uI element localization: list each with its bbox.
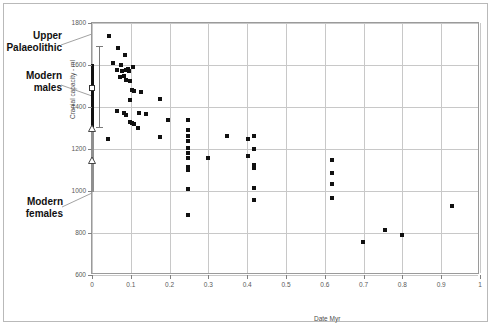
y-tick-mark (88, 65, 92, 66)
scatter-point (252, 198, 256, 202)
scatter-point (330, 171, 334, 175)
x-tick-mark (441, 275, 442, 279)
scatter-point (252, 147, 256, 151)
gridline-vertical (208, 23, 209, 273)
gridline-vertical (325, 23, 326, 273)
y-tick-mark (88, 23, 92, 24)
upper-palaeolithic-whisker (99, 46, 100, 127)
gridline-horizontal (92, 149, 478, 150)
scatter-point (206, 156, 210, 160)
x-tick-label: 0.9 (429, 281, 453, 288)
scatter-point (132, 89, 136, 93)
y-tick-label: 1800 (58, 19, 86, 26)
scatter-point (137, 111, 141, 115)
annotation-modern-females: Modern females (0, 196, 63, 220)
annotation-modern-males: Modern males (0, 70, 62, 94)
x-tick-label: 0 (80, 281, 104, 288)
annotation-upper-palaeolithic: Upper Palaeolithic (0, 30, 62, 54)
chart-figure: Upper Palaeolithic Modern males Modern f… (0, 0, 491, 325)
annotation-modern-females-line2: females (0, 208, 63, 220)
scatter-point (383, 228, 387, 232)
plot-area: 60080010001200140016001800 00.10.20.30.4… (91, 22, 479, 274)
x-tick-mark (364, 275, 365, 279)
scatter-point (246, 137, 250, 141)
scatter-point (361, 240, 365, 244)
gridline-vertical (247, 23, 248, 273)
x-tick-label: 0.5 (274, 281, 298, 288)
x-tick-mark (247, 275, 248, 279)
gridline-horizontal (92, 233, 478, 234)
x-tick-mark (131, 275, 132, 279)
x-tick-label: 0.2 (158, 281, 182, 288)
gridline-horizontal (92, 107, 478, 108)
scatter-point (186, 146, 190, 150)
y-tick-mark (88, 191, 92, 192)
annotation-modern-females-line1: Modern (0, 196, 63, 208)
y-tick-label: 1200 (58, 145, 86, 152)
scatter-point (186, 151, 190, 155)
scatter-point (400, 233, 404, 237)
scatter-point (136, 126, 140, 130)
scatter-point (186, 118, 190, 122)
x-axis-title: Date Myr (314, 315, 340, 322)
scatter-point (186, 128, 190, 132)
y-tick-mark (88, 233, 92, 234)
gridline-vertical (131, 23, 132, 273)
y-tick-mark (88, 107, 92, 108)
scatter-point (252, 134, 256, 138)
x-tick-label: 0.4 (235, 281, 259, 288)
x-tick-label: 0.1 (119, 281, 143, 288)
y-tick-label: 1000 (58, 187, 86, 194)
x-tick-mark (170, 275, 171, 279)
scatter-point (186, 139, 190, 143)
scatter-point (111, 61, 115, 65)
gridline-horizontal (92, 65, 478, 66)
gridline-vertical (364, 23, 365, 273)
modern-males-mean-marker (89, 85, 95, 91)
scatter-point (119, 63, 123, 67)
scatter-point (115, 68, 119, 72)
x-tick-mark (402, 275, 403, 279)
scatter-point (128, 79, 132, 83)
y-axis-title: Cranial capacity - ml (69, 60, 76, 119)
upper-palaeolithic-whisker-cap-top (96, 46, 103, 47)
scatter-point (186, 187, 190, 191)
scatter-point (166, 118, 170, 122)
annotation-modern-males-line2: males (0, 82, 62, 94)
y-tick-mark (88, 149, 92, 150)
modern-females-mean-marker (88, 156, 97, 165)
scatter-point (107, 34, 111, 38)
x-tick-mark (480, 275, 481, 279)
scatter-point (127, 69, 131, 73)
x-tick-label: 0.8 (390, 281, 414, 288)
gridline-vertical (480, 23, 481, 273)
x-tick-mark (325, 275, 326, 279)
gridline-vertical (286, 23, 287, 273)
scatter-point (252, 186, 256, 190)
y-tick-label: 600 (58, 271, 86, 278)
scatter-point (186, 156, 190, 160)
modern-males-range-bar (91, 64, 94, 128)
modern-males-lower-marker (88, 124, 97, 133)
scatter-point (116, 46, 120, 50)
gridline-horizontal (92, 191, 478, 192)
x-tick-mark (92, 275, 93, 279)
scatter-point (124, 113, 128, 117)
x-tick-mark (286, 275, 287, 279)
gridline-vertical (170, 23, 171, 273)
x-tick-label: 0.3 (196, 281, 220, 288)
scatter-point (246, 154, 250, 158)
scatter-point (186, 134, 190, 138)
x-tick-mark (208, 275, 209, 279)
gridline-horizontal (92, 23, 478, 24)
scatter-point (186, 168, 190, 172)
scatter-point (450, 204, 454, 208)
scatter-point (115, 109, 119, 113)
x-tick-label: 0.7 (352, 281, 376, 288)
scatter-point (252, 166, 256, 170)
y-tick-label: 800 (58, 229, 86, 236)
gridline-vertical (441, 23, 442, 273)
scatter-point (158, 97, 162, 101)
scatter-point (128, 98, 132, 102)
annotation-upper-palaeolithic-line1: Upper (0, 30, 62, 42)
